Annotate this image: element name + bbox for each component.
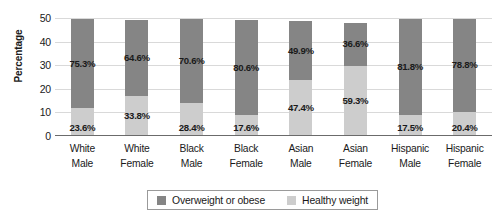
bar-group[interactable] — [289, 21, 312, 136]
value-label-overweight: 78.8% — [437, 60, 493, 70]
y-tick-label: 20 — [25, 84, 51, 94]
x-axis-label: BlackFemale — [215, 141, 277, 171]
gridline — [55, 42, 492, 43]
x-axis-category-labels: WhiteMaleWhiteFemaleBlackMaleBlackFemale… — [55, 141, 492, 177]
value-label-healthy: 23.6% — [54, 123, 110, 133]
value-label-healthy: 59.3% — [327, 96, 383, 106]
value-label-overweight: 36.6% — [327, 39, 383, 49]
chart-legend: Overweight or obese Healthy weight — [147, 190, 378, 210]
plot-area: 75.3%23.6%64.6%33.8%70.6%28.4%80.6%17.6%… — [55, 18, 492, 136]
stacked-bar-chart: Percentage 50403020100 75.3%23.6%64.6%33… — [0, 0, 501, 224]
legend-item-healthy: Healthy weight — [287, 195, 368, 206]
x-axis-label: HispanicFemale — [434, 141, 496, 171]
legend-label-healthy: Healthy weight — [302, 195, 368, 206]
bar-group[interactable] — [453, 19, 476, 136]
legend-swatch-overweight-icon — [157, 196, 166, 205]
value-label-overweight: 49.9% — [273, 46, 329, 56]
value-label-healthy: 20.4% — [437, 123, 493, 133]
value-label-healthy: 28.4% — [164, 123, 220, 133]
value-label-overweight: 81.8% — [382, 62, 438, 72]
value-label-healthy: 33.8% — [109, 111, 165, 121]
y-tick-label: 0 — [25, 131, 51, 141]
bar-group[interactable] — [235, 20, 258, 136]
gridline — [55, 89, 492, 90]
value-label-healthy: 17.6% — [218, 123, 274, 133]
value-label-healthy: 17.5% — [382, 123, 438, 133]
x-axis-label: AsianFemale — [324, 141, 386, 171]
y-tick-label: 30 — [25, 60, 51, 70]
x-axis-label: AsianMale — [270, 141, 332, 171]
gridline — [55, 18, 492, 19]
legend-swatch-healthy-icon — [287, 196, 296, 205]
value-label-overweight: 80.6% — [218, 63, 274, 73]
x-axis-label: BlackMale — [161, 141, 223, 171]
legend-item-overweight: Overweight or obese — [157, 195, 265, 206]
value-label-healthy: 47.4% — [273, 103, 329, 113]
y-axis-tick-labels: 50403020100 — [25, 13, 51, 136]
x-axis-label: HispanicMale — [379, 141, 441, 171]
y-tick-label: 10 — [25, 107, 51, 117]
x-axis-label: WhiteFemale — [106, 141, 168, 171]
value-label-overweight: 70.6% — [164, 56, 220, 66]
bar-group[interactable] — [180, 19, 203, 136]
bar-group[interactable] — [399, 19, 422, 136]
legend-label-overweight: Overweight or obese — [172, 195, 265, 206]
x-axis-label: WhiteMale — [51, 141, 113, 171]
y-tick-label: 40 — [25, 37, 51, 47]
x-axis-line — [55, 135, 492, 136]
y-tick-label: 50 — [25, 13, 51, 23]
value-label-overweight: 75.3% — [54, 59, 110, 69]
bar-group[interactable] — [71, 19, 94, 136]
value-label-overweight: 64.6% — [109, 53, 165, 63]
